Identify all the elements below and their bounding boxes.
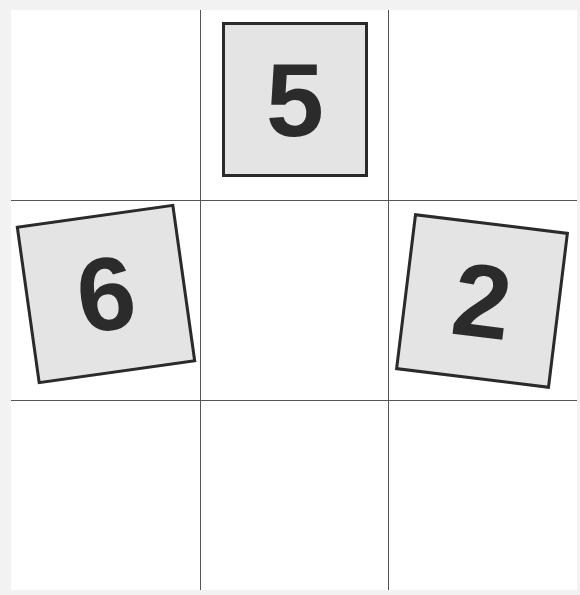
grid-line-horizontal-2	[11, 400, 577, 401]
grid-line-vertical-1	[200, 10, 201, 590]
card-digit: 5	[266, 48, 324, 152]
grid-line-horizontal-1	[11, 200, 577, 201]
number-card-2[interactable]: 2	[395, 213, 569, 389]
card-digit: 6	[70, 238, 142, 349]
number-card-5[interactable]: 5	[222, 22, 368, 177]
card-digit: 2	[447, 246, 517, 356]
number-card-6[interactable]: 6	[16, 204, 197, 385]
grid-line-vertical-2	[388, 10, 389, 590]
